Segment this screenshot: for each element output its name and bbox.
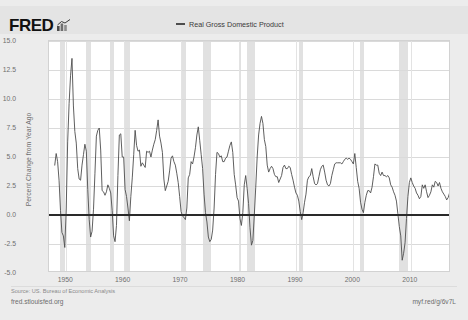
y-axis-tick-label: 15.0 (0, 37, 16, 44)
y-axis-tick-label: 10.0 (0, 95, 16, 102)
fred-chart-card: FRED Real Gross Domestic Product Percent… (0, 0, 468, 320)
x-axis-tick-label: 2000 (332, 276, 372, 283)
x-axis-tick-label: 1980 (218, 276, 258, 283)
source-attribution: Source: US. Bureau of Economic Analysis (11, 288, 115, 294)
x-axis-tick-label: 1960 (103, 276, 143, 283)
zero-reference-line (49, 214, 449, 216)
legend-label-gdp[interactable]: Real Gross Domestic Product (189, 20, 284, 29)
x-axis-tick-label: 1950 (45, 276, 85, 283)
chart-legend: Real Gross Domestic Product (176, 18, 284, 30)
y-axis-tick-label: 5.0 (0, 153, 16, 160)
bar-chart-glyph-icon (57, 19, 71, 31)
y-axis-tick-label: -2.5 (0, 240, 16, 247)
footer-divider (11, 286, 457, 287)
plot-area[interactable] (48, 40, 450, 272)
chart-short-url[interactable]: myf.red/g/6v7L (412, 298, 456, 305)
y-axis-tick-label: -5.0 (0, 269, 16, 276)
y-axis-tick-label: 12.5 (0, 66, 16, 73)
fred-site-url[interactable]: fred.stlouisfed.org (11, 298, 63, 305)
y-axis-tick-label: 0.0 (0, 211, 16, 218)
y-axis-title: Percent Change from Year Ago (25, 80, 32, 240)
fred-logo[interactable]: FRED (9, 17, 53, 34)
legend-swatch-gdp (176, 23, 185, 25)
y-axis-tick-label: 7.5 (0, 124, 16, 131)
y-axis-tick-label: 2.5 (0, 182, 16, 189)
x-axis-tick-label: 1970 (160, 276, 200, 283)
series-line-gdp (49, 41, 450, 272)
chart-header: FRED Real Gross Domestic Product (0, 6, 468, 34)
x-axis-tick-label: 2010 (390, 276, 430, 283)
x-axis-tick-label: 1990 (275, 276, 315, 283)
